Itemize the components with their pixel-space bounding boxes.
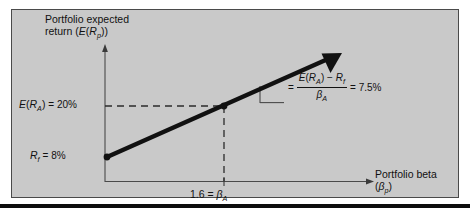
beta-tick-value: 1.6 (190, 188, 205, 200)
rf-subscript: f (38, 155, 40, 164)
num-minus: − (327, 72, 333, 83)
era-value: = 20% (48, 99, 77, 110)
label-expected-return: E(RA) = 20% (19, 98, 77, 114)
bottom-divider-rule (0, 204, 470, 208)
rf-value: = 8% (43, 150, 66, 161)
beta-tick-equals: = (208, 188, 214, 200)
slope-leading-equals: = (288, 82, 294, 94)
y-axis-title-line1: Portfolio expected (45, 13, 129, 25)
y-axis (102, 44, 108, 182)
slope-trailing-equals: = (350, 82, 356, 94)
x-axis-title-line2: (βp) (375, 180, 437, 196)
num-var-rf: R (336, 72, 343, 83)
num-var-e: E (299, 72, 306, 83)
label-beta-tick: 1.6 = βA (190, 188, 227, 204)
num-paren-close: ) (321, 72, 324, 83)
figure-container: Portfolio expected return (E(Rp)) Portfo… (0, 0, 470, 224)
num-var-r: R (309, 72, 316, 83)
label-risk-free-rate: Rf = 8% (30, 149, 66, 165)
x-axis (105, 179, 374, 185)
x-axis-title: Portfolio beta (βp) (375, 168, 437, 196)
point-portfolio-a (221, 103, 228, 110)
era-var-r: R (30, 98, 38, 110)
y-title-paren-close: )) (101, 25, 108, 37)
point-risk-free (104, 154, 111, 161)
slope-result-value: 7.5% (359, 82, 382, 94)
era-paren-close: ) (42, 98, 46, 110)
y-axis-title: Portfolio expected return (E(Rp)) (45, 13, 129, 41)
beta-tick-subscript: A (223, 194, 228, 203)
slope-numerator: E(RA) − Rf (297, 72, 347, 87)
y-title-var-e: E (79, 25, 86, 37)
rf-var-r: R (30, 149, 38, 161)
num-subscript-f: f (343, 77, 345, 86)
den-subscript: A (322, 94, 327, 103)
y-title-prefix: return ( (45, 25, 79, 37)
y-axis-title-line2: return (E(Rp)) (45, 25, 129, 41)
slope-formula-annotation: = E(RA) − Rf βA = 7.5% (288, 72, 382, 104)
slope-denominator: βA (315, 88, 330, 103)
era-var-e: E (19, 98, 26, 110)
slope-fraction: E(RA) − Rf βA (297, 72, 347, 104)
x-title-paren-close: ) (389, 180, 393, 192)
x-axis-title-line1: Portfolio beta (375, 168, 437, 180)
y-title-var-r: R (89, 25, 97, 37)
